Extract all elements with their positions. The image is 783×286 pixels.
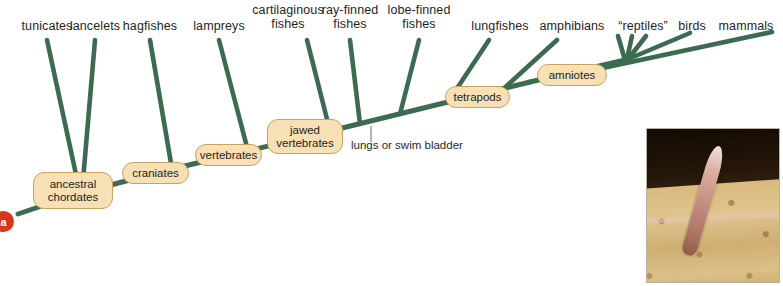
branch-tip-hagfishes bbox=[150, 40, 172, 169]
branch-tip-lampreys bbox=[219, 40, 248, 151]
node-jawed-vertebrates[interactable]: jawed vertebrates bbox=[267, 119, 343, 154]
lancelet-photo bbox=[646, 128, 780, 283]
tip-label-lungfishes: lungfishes bbox=[462, 19, 538, 33]
node-amniotes[interactable]: amniotes bbox=[537, 64, 607, 86]
branch-tip-ray-finned-fishes bbox=[350, 40, 360, 124]
branch-tip-lancelets bbox=[82, 40, 95, 192]
node-tetrapods[interactable]: tetrapods bbox=[445, 86, 510, 108]
annotation-lungs-or-swim-bladder: lungs or swim bladder bbox=[351, 139, 463, 151]
tip-label-reptiles: “reptiles” bbox=[609, 19, 677, 33]
node-vertebrates[interactable]: vertebrates bbox=[195, 144, 262, 166]
node-craniates[interactable]: craniates bbox=[122, 162, 189, 184]
branch-tip-cartilaginous-fishes bbox=[307, 40, 330, 131]
tip-label-mammals: mammals bbox=[709, 19, 783, 33]
tip-label-lobe-finned-fishes: lobe-finned fishes bbox=[374, 3, 464, 31]
tip-label-birds: birds bbox=[671, 19, 713, 33]
phylogenetic-tree-figure: tunicates lancelets hagfishes lampreys c… bbox=[0, 0, 783, 286]
tip-label-hagfishes: hagfishes bbox=[113, 19, 187, 33]
tip-label-amphibians: amphibians bbox=[531, 19, 613, 33]
branch-tip-lobe-finned-fishes bbox=[400, 40, 419, 114]
branch-tip-reptiles-1 bbox=[618, 36, 625, 60]
branch-jawed-to-tetrapods bbox=[330, 102, 448, 131]
branch-tip-tunicates bbox=[47, 40, 80, 193]
node-ancestral-chordates[interactable]: ancestral chordates bbox=[33, 172, 113, 209]
